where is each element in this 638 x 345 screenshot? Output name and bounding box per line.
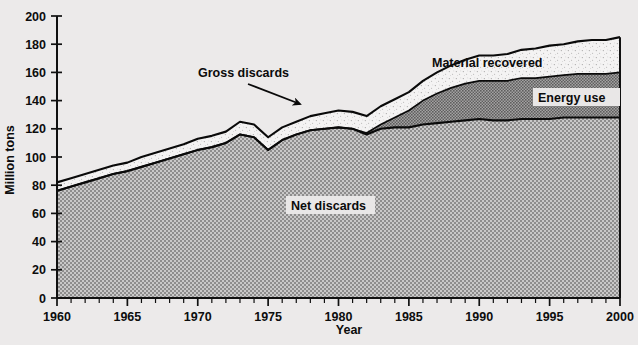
- y-tick-label: 0: [39, 292, 46, 306]
- gross-discards-label: Gross discards: [198, 66, 289, 80]
- x-tick-label: 1975: [254, 310, 282, 324]
- net-discards-label: Net discards: [291, 199, 366, 213]
- x-tick-label: 1965: [113, 310, 141, 324]
- annotation-net-discards: Net discards: [286, 196, 375, 214]
- y-tick-label: 140: [25, 94, 46, 108]
- stacked-area-chart: 020406080100120140160180200 196019651970…: [0, 0, 638, 345]
- x-tick-label: 1980: [325, 310, 353, 324]
- x-tick-label: 2000: [606, 310, 634, 324]
- y-tick-label: 20: [32, 263, 46, 277]
- annotation-energy-use: Energy use: [533, 88, 620, 106]
- x-axis-title: Year: [336, 323, 363, 337]
- x-tick-label: 1990: [465, 310, 493, 324]
- y-tick-label: 40: [32, 235, 46, 249]
- chart-container: 020406080100120140160180200 196019651970…: [0, 0, 638, 345]
- energy-use-label: Energy use: [538, 91, 605, 105]
- y-tick-label: 200: [25, 10, 46, 24]
- y-tick-label: 120: [25, 122, 46, 136]
- annotation-material-recovered: Material recovered: [432, 56, 542, 70]
- x-tick-label: 1960: [43, 310, 71, 324]
- x-tick-label: 1985: [395, 310, 423, 324]
- material-recovered-label: Material recovered: [432, 56, 542, 70]
- y-tick-label: 80: [32, 179, 46, 193]
- y-axis-title: Million tons: [3, 125, 17, 194]
- y-tick-label: 60: [32, 207, 46, 221]
- y-tick-label: 180: [25, 38, 46, 52]
- y-tick-label: 160: [25, 66, 46, 80]
- y-tick-label: 100: [25, 151, 46, 165]
- x-tick-label: 1970: [184, 310, 212, 324]
- x-tick-label: 1995: [536, 310, 564, 324]
- x-axis-tick-labels: 196019651970197519801985199019952000: [43, 310, 634, 324]
